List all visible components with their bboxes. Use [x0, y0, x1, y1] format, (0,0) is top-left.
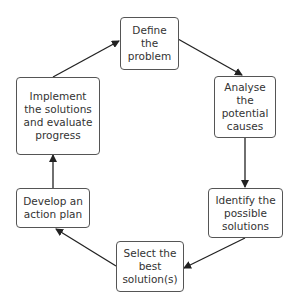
node-select: Select the best solution(s) [116, 241, 184, 292]
arrow-identify-to-select [184, 238, 245, 268]
node-develop-label: Develop an action plan [20, 195, 86, 221]
node-define: Define the problem [120, 17, 179, 70]
arrow-implement-to-define [53, 41, 119, 77]
node-analyse-label: Analyse the potential causes [217, 81, 273, 133]
node-implement-label: Implement the solutions and evaluate pro… [20, 90, 96, 142]
node-identify-label: Identify the possible solutions [212, 194, 280, 233]
node-develop: Develop an action plan [16, 188, 90, 228]
node-select-label: Select the best solution(s) [121, 247, 179, 286]
arrow-define-to-analyse [178, 39, 242, 75]
node-identify: Identify the possible solutions [208, 188, 283, 238]
node-analyse: Analyse the potential causes [214, 76, 276, 138]
node-implement: Implement the solutions and evaluate pro… [16, 77, 100, 155]
arrow-select-to-develop [56, 229, 116, 266]
node-define-label: Define the problem [128, 24, 172, 63]
